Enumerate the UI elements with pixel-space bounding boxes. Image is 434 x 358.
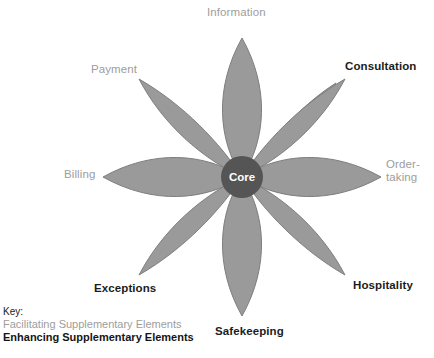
petal-label-hospitality: Hospitality — [353, 279, 413, 292]
petal-label-consultation: Consultation — [345, 60, 416, 73]
petal-label-information: Information — [207, 6, 266, 19]
petal-label-billing: Billing — [64, 168, 95, 181]
legend-key: Key: Facilitating Supplementary Elements… — [3, 306, 213, 344]
legend-title: Key: — [3, 306, 213, 318]
legend-item-enhancing: Enhancing Supplementary Elements — [3, 331, 213, 344]
flower-of-service-diagram: Core Information Consultation Order- tak… — [0, 0, 434, 358]
petal-label-exceptions: Exceptions — [94, 282, 156, 295]
petal-label-safekeeping: Safekeeping — [215, 325, 284, 338]
core-label: Core — [229, 171, 255, 183]
legend-item-facilitating: Facilitating Supplementary Elements — [3, 318, 213, 331]
core-group: Core — [221, 156, 263, 198]
petal-label-payment: Payment — [91, 63, 137, 76]
petal-label-order-taking: Order- taking — [386, 158, 420, 184]
